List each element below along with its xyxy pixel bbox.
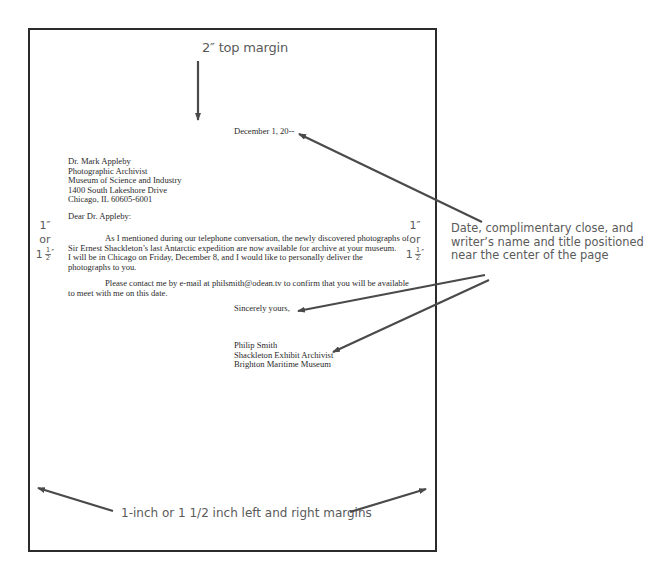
right-margin-label: 1″ or 112″ bbox=[398, 219, 432, 262]
side-margins-label: 1-inch or 1 1/2 inch left and right marg… bbox=[121, 506, 372, 520]
note-line: near the center of the page bbox=[451, 249, 656, 263]
margin-or: or bbox=[28, 233, 62, 247]
address-line: Chicago, IL 60605-6001 bbox=[68, 195, 182, 205]
body-paragraph-1: As I mentioned during our telephone conv… bbox=[68, 234, 398, 272]
margin-fraction: 112″ bbox=[398, 247, 432, 262]
inside-address: Dr. Mark Appleby Photographic Archivist … bbox=[68, 157, 182, 205]
margin-fraction: 112″ bbox=[28, 247, 62, 262]
complimentary-close: Sincerely yours, bbox=[234, 304, 290, 314]
center-positioning-note: Date, complimentary close, and writer’s … bbox=[451, 222, 656, 263]
top-margin-label: 2″ top margin bbox=[202, 40, 288, 55]
salutation: Dear Dr. Appleby: bbox=[68, 212, 131, 222]
margin-or: or bbox=[398, 233, 432, 247]
margin-inch: 1″ bbox=[398, 219, 432, 233]
body-paragraph-2: Please contact me by e-mail at philsmith… bbox=[68, 279, 398, 298]
note-line: Date, complimentary close, and bbox=[451, 222, 656, 236]
letter-date: December 1, 20-- bbox=[234, 127, 294, 137]
left-margin-label: 1″ or 112″ bbox=[28, 219, 62, 262]
signature-block: Philip Smith Shackleton Exhibit Archivis… bbox=[234, 341, 333, 370]
note-line: writer’s name and title positioned bbox=[451, 236, 656, 250]
paragraph-line: to meet with me on this date. bbox=[68, 289, 398, 299]
paragraph-line: photographs to you. bbox=[68, 263, 398, 273]
signature-organization: Brighton Maritime Museum bbox=[234, 360, 333, 370]
margin-inch: 1″ bbox=[28, 219, 62, 233]
